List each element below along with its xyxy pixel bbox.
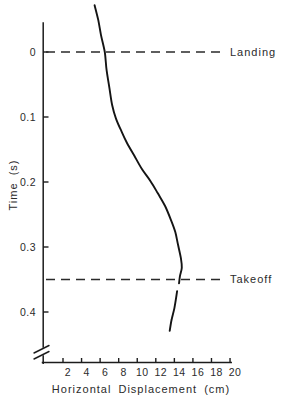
y-tick-label: 0 xyxy=(30,46,36,58)
x-tick-label: 20 xyxy=(229,366,242,378)
y-tick-label: 0.4 xyxy=(20,306,36,318)
x-tick-label: 6 xyxy=(102,366,108,378)
x-tick-label: 18 xyxy=(210,366,223,378)
x-tick-label: 8 xyxy=(121,366,127,378)
annotation-lines-group xyxy=(46,52,223,280)
time-vs-horizontal-displacement-chart: 00.10.20.30.4 2468101214161820 Landing T… xyxy=(0,0,285,401)
x-tick-label: 14 xyxy=(173,366,186,378)
x-axis-title: Horizontal Displacement (cm) xyxy=(52,383,230,395)
x-tick-label: 10 xyxy=(136,366,149,378)
y-axis-title: Time (s) xyxy=(7,160,19,211)
x-tick-label: 4 xyxy=(83,366,89,378)
takeoff-annotation-label: Takeoff xyxy=(230,273,272,285)
landing-annotation-label: Landing xyxy=(230,46,276,58)
x-ticks-group: 2468101214161820 xyxy=(63,358,241,378)
y-tick-label: 0.2 xyxy=(20,176,36,188)
x-tick-label: 12 xyxy=(154,366,167,378)
y-tick-label: 0.1 xyxy=(20,111,36,123)
y-ticks-group: 00.10.20.30.4 xyxy=(20,46,49,318)
x-tick-label: 2 xyxy=(65,366,71,378)
jump-contact-figure: 00.10.20.30.4 2468101214161820 Landing T… xyxy=(0,0,285,401)
x-tick-label: 16 xyxy=(192,366,205,378)
y-tick-label: 0.3 xyxy=(20,241,36,253)
displacement-after-takeoff xyxy=(170,291,177,331)
displacement-before-and-during-contact xyxy=(95,5,182,283)
curve-group xyxy=(95,5,182,331)
